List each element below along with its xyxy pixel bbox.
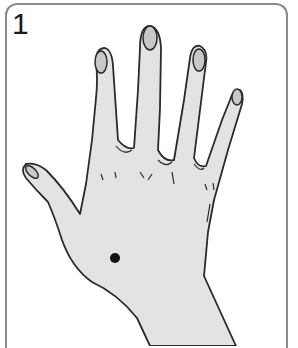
hand-outline	[23, 26, 243, 346]
nail-pinky	[232, 89, 242, 105]
nail-middle	[143, 26, 157, 50]
nail-ring	[193, 49, 205, 71]
pressure-point-marker	[110, 253, 120, 263]
nail-index	[95, 51, 107, 73]
